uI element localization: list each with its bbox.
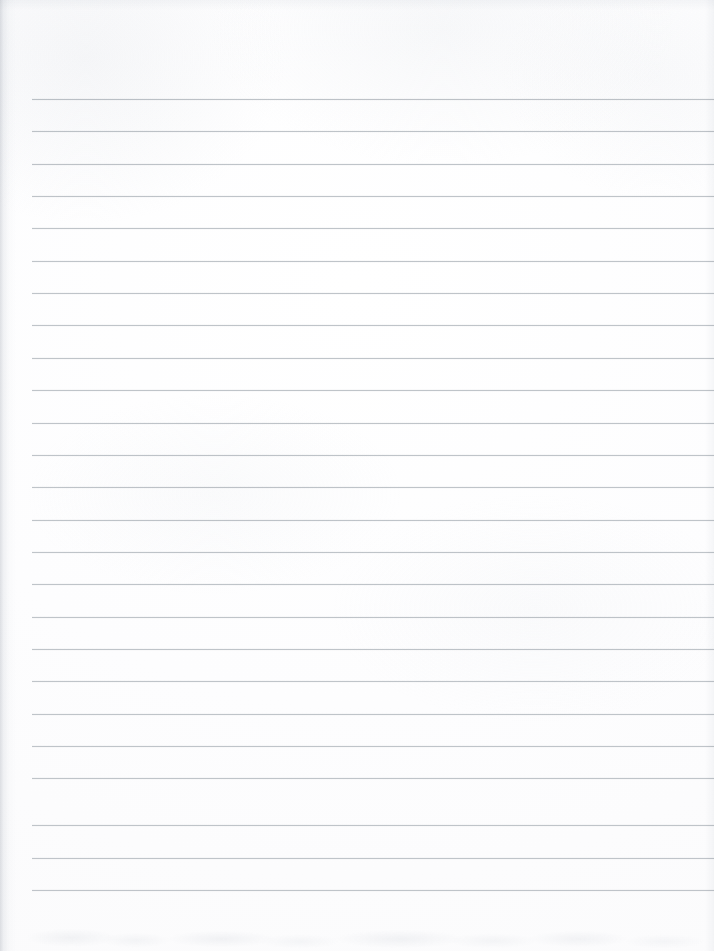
- ruling-line: [32, 455, 714, 456]
- scanned-page: [0, 0, 714, 951]
- ruling-line: [32, 131, 714, 132]
- ruling-line: [32, 778, 714, 779]
- ruling-line-layer: [0, 0, 714, 951]
- ruling-line: [32, 390, 714, 391]
- ruling-line: [32, 746, 714, 747]
- ruling-line: [32, 825, 714, 826]
- ruling-line: [32, 520, 714, 521]
- ruling-line: [32, 325, 714, 326]
- ruling-line: [32, 552, 714, 553]
- ruling-line: [32, 261, 714, 262]
- ruling-line: [32, 99, 714, 100]
- ruling-line: [32, 293, 714, 294]
- ruling-line: [32, 584, 714, 585]
- ruling-line: [32, 228, 714, 229]
- ruling-line: [32, 487, 714, 488]
- ruling-line: [32, 423, 714, 424]
- ruling-line: [32, 681, 714, 682]
- ruling-line: [32, 358, 714, 359]
- ruling-line: [32, 858, 714, 859]
- ruling-line: [32, 714, 714, 715]
- ruling-line: [32, 890, 714, 891]
- ruling-line: [32, 617, 714, 618]
- ruling-line: [32, 196, 714, 197]
- ruling-line: [32, 164, 714, 165]
- ruling-line: [32, 649, 714, 650]
